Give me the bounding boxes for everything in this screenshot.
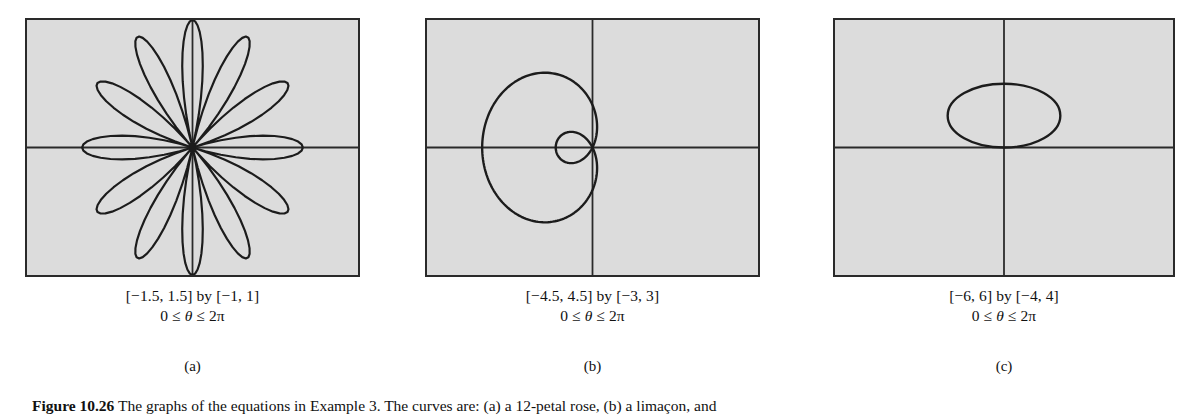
theta-range-c: 0 ≤ θ ≤ 2π [833,306,1175,326]
limacon-curve-plot [427,20,758,275]
theta-prefix-a: 0 ≤ [160,307,184,324]
theta-suffix-a: ≤ 2π [192,307,224,324]
plot-frame-a [25,18,360,277]
range-caption-b: [−4.5, 4.5] by [−3, 3] 0 ≤ θ ≤ 2π [425,286,760,327]
theta-suffix-c: ≤ 2π [1004,307,1036,324]
figure-caption: Figure 10.26 The graphs of the equations… [32,396,1172,415]
panel-label-c: (c) [833,358,1175,375]
plot-frame-b [425,18,760,277]
range-caption-c: [−6, 6] by [−4, 4] 0 ≤ θ ≤ 2π [833,286,1175,327]
panel-label-b: (b) [425,358,760,375]
theta-suffix-b: ≤ 2π [592,307,624,324]
figure-panel-row: [−1.5, 1.5] by [−1, 1] 0 ≤ θ ≤ 2π (a) [−… [0,0,1203,415]
figure-caption-text: The graphs of the equations in Example 3… [118,397,716,414]
theta-range-a: 0 ≤ θ ≤ 2π [25,306,360,326]
range-window-b: [−4.5, 4.5] by [−3, 3] [425,286,760,306]
theta-prefix-b: 0 ≤ [560,307,584,324]
theta-prefix-c: 0 ≤ [972,307,996,324]
theta-range-b: 0 ≤ θ ≤ 2π [425,306,760,326]
plot-frame-c [833,18,1175,277]
figure-number: Figure 10.26 [32,397,114,414]
range-window-c: [−6, 6] by [−4, 4] [833,286,1175,306]
range-caption-a: [−1.5, 1.5] by [−1, 1] 0 ≤ θ ≤ 2π [25,286,360,327]
theta-symbol-c: θ [996,307,1004,324]
range-window-a: [−1.5, 1.5] by [−1, 1] [25,286,360,306]
circle-curve-plot [835,20,1173,275]
panel-label-a: (a) [25,358,360,375]
rose-curve-plot [27,20,358,275]
